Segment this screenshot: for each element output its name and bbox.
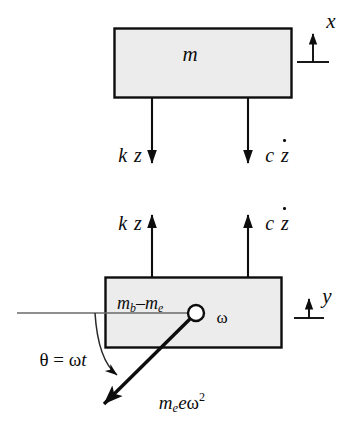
lower-mass-middle: –m [136, 293, 158, 313]
force-omega-symbol: ω [187, 392, 200, 413]
x-coordinate-label: x [326, 11, 335, 32]
equals-sign: = [53, 349, 64, 370]
damper-variable-dotted: z [281, 145, 289, 165]
time-variable: t [81, 349, 86, 370]
force-exponent: 2 [199, 390, 205, 404]
lower-mass-label: mb–me [117, 294, 163, 315]
theta-symbol: θ [39, 349, 48, 370]
spring-force-down-label: k z [118, 145, 141, 165]
lower-mass-prefix: m [117, 293, 130, 313]
spring-symbol-up: k [118, 212, 127, 234]
damper-symbol: c [265, 144, 274, 166]
force-mass-symbol: m [159, 392, 173, 413]
spring-force-up-label: k z [118, 213, 141, 233]
centrifugal-force-label: meeω2 [159, 391, 205, 415]
upper-mass-label: m [182, 44, 197, 65]
overdot-icon-up [283, 207, 286, 210]
damper-variable-dotted-up: z [281, 213, 289, 233]
spring-variable-up: z [134, 212, 142, 234]
damper-variable: z [281, 144, 289, 166]
spring-symbol: k [118, 144, 127, 166]
omega-symbol: ω [69, 349, 82, 370]
figure-canvas: m mb–me x y k z c z k z c z ω θ = ωt mee… [0, 0, 358, 436]
overdot-icon [283, 139, 286, 142]
angular-velocity-label: ω [216, 309, 227, 326]
free-body-diagram [0, 0, 358, 436]
damper-force-up-label: c z [265, 213, 288, 233]
damper-force-down-label: c z [265, 145, 288, 165]
damper-symbol-up: c [265, 212, 274, 234]
eccentricity-symbol: e [178, 392, 186, 413]
y-coordinate-label: y [322, 286, 331, 307]
eccentric-mass-hub [188, 305, 204, 321]
upper-mass-block [115, 29, 292, 98]
angle-expression-label: θ = ωt [39, 350, 86, 369]
lower-mass-sub-e: e [158, 301, 163, 315]
spring-variable: z [134, 144, 142, 166]
damper-variable-up: z [281, 212, 289, 234]
